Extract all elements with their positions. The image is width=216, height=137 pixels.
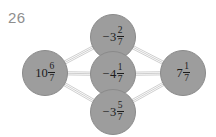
node-numerator-bottom: 5	[117, 101, 124, 111]
graph-edge	[132, 47, 164, 63]
node-fraction-left: 6 7	[48, 62, 55, 83]
diagram-screenshot: 26 10 6 7 − 3 2 7 − 4	[0, 0, 216, 137]
graph-edge	[65, 48, 95, 64]
node-value-top: − 3 2 7	[102, 26, 123, 47]
graph-edge	[132, 83, 164, 101]
graph-edge	[64, 82, 95, 100]
node-denominator-top: 7	[117, 38, 124, 48]
node-sign-center: −	[102, 68, 110, 81]
graph-node-bottom[interactable]: − 3 5 7	[90, 89, 136, 135]
node-fraction-center: 1 7	[117, 63, 124, 84]
node-sign-bottom: −	[102, 106, 110, 119]
node-denominator-center: 7	[117, 75, 124, 85]
node-fraction-top: 2 7	[117, 26, 124, 47]
graph-edge	[63, 46, 93, 62]
node-fraction-right: 1 7	[183, 62, 190, 83]
node-whole-center: 4	[110, 68, 117, 81]
node-numerator-top: 2	[117, 26, 124, 36]
node-value-center: − 4 1 7	[102, 63, 123, 84]
graph-edge	[133, 85, 165, 103]
node-numerator-center: 1	[117, 63, 124, 73]
graph-edge	[63, 85, 94, 103]
node-denominator-right: 7	[183, 74, 190, 84]
graph-edge	[64, 84, 95, 102]
node-whole-bottom: 3	[110, 106, 117, 119]
node-denominator-left: 7	[48, 74, 55, 84]
graph-edge	[133, 45, 165, 61]
node-sign-top: −	[102, 31, 110, 44]
node-numerator-right: 1	[183, 62, 190, 72]
node-value-right: 7 1 7	[176, 62, 190, 83]
node-value-left: 10 6 7	[35, 62, 56, 83]
node-whole-top: 3	[110, 31, 117, 44]
graph-node-right[interactable]: 7 1 7	[160, 50, 206, 96]
graph-edge	[131, 48, 163, 64]
node-value-bottom: − 3 5 7	[102, 101, 123, 122]
graph-edge	[131, 82, 163, 100]
node-fraction-bottom: 5 7	[117, 101, 124, 122]
node-whole-right: 7	[176, 67, 183, 80]
node-denominator-bottom: 7	[117, 113, 124, 123]
graph-node-left[interactable]: 10 6 7	[22, 50, 68, 96]
node-numerator-left: 6	[48, 62, 55, 72]
node-whole-left: 10	[35, 67, 48, 80]
graph-edge	[64, 47, 94, 63]
